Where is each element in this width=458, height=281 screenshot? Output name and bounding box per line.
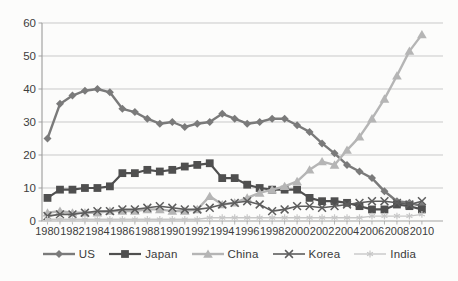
x-tick-label: 1986 [110, 225, 134, 237]
x-tick-label: 1984 [85, 225, 109, 237]
marker-us [168, 118, 176, 126]
y-tick-label: 30 [23, 116, 36, 128]
legend-marker-japan [121, 250, 129, 258]
legend-item-japan: Japan [108, 248, 177, 260]
marker-japan [318, 197, 326, 205]
x-tick-label: 1988 [135, 225, 159, 237]
legend-marker-korea-icon [272, 248, 306, 260]
marker-us [156, 120, 164, 128]
legend-label-korea: Korea [309, 248, 341, 260]
marker-us [181, 123, 189, 131]
marker-japan [193, 161, 201, 169]
marker-us [256, 118, 264, 126]
legend-item-korea: Korea [272, 248, 341, 260]
marker-japan [206, 159, 214, 167]
y-tick-label: 10 [23, 182, 36, 194]
marker-us [44, 135, 52, 143]
marker-japan [131, 169, 139, 177]
marker-japan [143, 166, 151, 174]
legend-marker-us-icon [42, 248, 76, 260]
marker-japan [218, 174, 226, 182]
marker-japan [181, 163, 189, 171]
x-tick-label: 1998 [260, 225, 284, 237]
marker-japan [368, 206, 376, 214]
plot-area: 0102030405060198019821984198619881990199… [0, 0, 458, 244]
legend-item-china: China [191, 248, 259, 260]
y-tick-label: 40 [23, 83, 36, 95]
series-line-us [48, 89, 422, 206]
marker-japan [306, 194, 314, 202]
marker-japan [94, 184, 102, 192]
x-tick-label: 1992 [185, 225, 209, 237]
marker-japan [243, 181, 251, 189]
chart-legend: USJapanChinaKoreaIndia [0, 248, 458, 260]
legend-marker-japan-icon [108, 248, 142, 260]
marker-japan [81, 184, 89, 192]
legend-marker-china-icon [191, 248, 225, 260]
legend-marker-india-icon [353, 248, 387, 260]
x-tick-label: 1982 [60, 225, 84, 237]
x-tick-label: 2008 [385, 225, 409, 237]
chart: 0102030405060198019821984198619881990199… [0, 0, 458, 281]
legend-item-us: US [42, 248, 95, 260]
x-tick-label: 1994 [210, 225, 234, 237]
y-tick-label: 50 [23, 50, 36, 62]
x-tick-label: 2004 [335, 225, 359, 237]
marker-japan [56, 186, 64, 194]
legend-item-india: India [353, 248, 416, 260]
marker-us [243, 120, 251, 128]
x-tick-label: 1996 [235, 225, 259, 237]
marker-japan [231, 174, 239, 182]
legend-label-us: US [79, 248, 95, 260]
marker-us [81, 87, 89, 95]
marker-us [193, 120, 201, 128]
legend-marker-us [55, 250, 63, 258]
legend-label-japan: Japan [145, 248, 177, 260]
marker-japan [44, 194, 52, 202]
y-tick-label: 20 [23, 149, 36, 161]
legend-label-india: India [390, 248, 416, 260]
x-tick-label: 2010 [410, 225, 434, 237]
y-tick-label: 60 [23, 17, 36, 29]
marker-china [392, 71, 402, 79]
x-tick-label: 1990 [160, 225, 184, 237]
marker-china [380, 94, 390, 102]
marker-japan [381, 206, 389, 214]
x-tick-label: 2000 [285, 225, 309, 237]
marker-japan [156, 168, 164, 176]
marker-us [93, 85, 101, 93]
marker-japan [293, 186, 301, 194]
x-tick-label: 2002 [310, 225, 334, 237]
marker-china [205, 192, 215, 200]
legend-label-china: China [228, 248, 259, 260]
marker-japan [118, 169, 126, 177]
marker-japan [69, 186, 77, 194]
x-tick-label: 1980 [35, 225, 59, 237]
marker-china [417, 30, 427, 38]
x-tick-label: 2006 [360, 225, 384, 237]
marker-china [317, 157, 327, 165]
marker-japan [106, 182, 114, 190]
marker-japan [168, 166, 176, 174]
